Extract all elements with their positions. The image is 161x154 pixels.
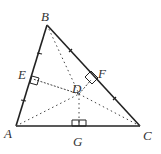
label-e: E — [17, 67, 26, 82]
label-d: D — [71, 81, 82, 96]
label-b: B — [41, 9, 49, 24]
label-g: G — [73, 134, 83, 149]
segment-da — [16, 94, 79, 126]
side-bc — [47, 25, 140, 126]
label-c: C — [143, 128, 152, 143]
geometry-diagram: A B C D E F G — [0, 0, 161, 154]
triangle-figure: A B C D E F G — [0, 0, 161, 154]
segment-dc — [79, 94, 140, 126]
label-a: A — [3, 126, 12, 141]
tick-mark-ae — [21, 100, 26, 101]
label-f: F — [97, 66, 107, 81]
